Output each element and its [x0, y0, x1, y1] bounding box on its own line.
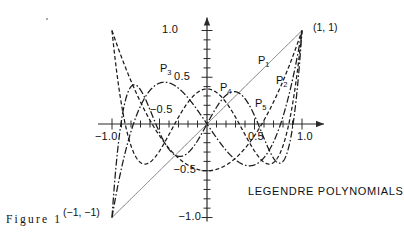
curve-label-p5: P5	[255, 97, 267, 112]
y-tick-label-neg1.0: −1.0	[178, 210, 201, 222]
inner-tick-label-neg0.5: −0.5	[150, 103, 173, 115]
curve-label-p2: P2	[276, 74, 288, 89]
y-tick-label-1.0: 1.0	[162, 23, 178, 35]
curve-label-p1: P1	[258, 54, 270, 69]
y-tick-label-0.5: 0.5	[174, 70, 190, 82]
y-axis-arrow	[204, 18, 210, 26]
chart-title: LEGENDRE POLYNOMIALS	[248, 185, 404, 197]
curve-label-p3: P3	[160, 62, 172, 77]
figure-number: Figure 1	[6, 213, 62, 225]
x-tick-label-1.0: 1.0	[297, 130, 313, 142]
y-tick-label-neg0.5: −0.5	[173, 163, 196, 175]
x-tick-label-neg1.0: −1.0	[95, 130, 118, 142]
x-axis-arrow	[316, 121, 324, 127]
curve-label-p4: P4	[220, 81, 232, 96]
point-label-top-right: (1, 1)	[313, 21, 338, 33]
x-tick-label-0.5: 0.5	[248, 130, 264, 142]
point-label-bottom-left: (−1, −1)	[63, 206, 100, 218]
